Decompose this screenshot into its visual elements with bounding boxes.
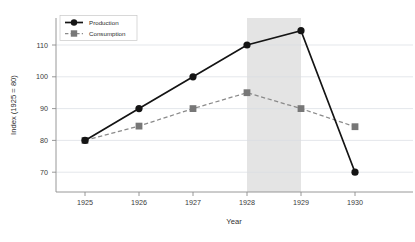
shaded-region-1928-1929 [247, 18, 301, 192]
x-tick-label-1928: 1928 [239, 198, 255, 207]
line-chart: 110 100 90 80 70 1925 1926 1927 1928 192… [0, 0, 415, 242]
x-tick-label-1929: 1929 [293, 198, 309, 207]
legend-label-production: Production [89, 19, 119, 26]
production-point-1928 [243, 41, 250, 48]
consumption-point-1927 [190, 105, 197, 112]
shaded-region-group [247, 18, 301, 192]
legend-label-consumption: Consumption [89, 30, 126, 37]
consumption-point-1928 [244, 89, 251, 96]
series-consumption [82, 89, 359, 144]
axes-group [56, 18, 413, 192]
legend-entry-production[interactable]: Production [65, 19, 119, 26]
chart-legend[interactable]: Production Consumption [60, 16, 137, 41]
production-point-1926 [135, 105, 142, 112]
x-tick-labels: 1925 1926 1927 1928 1929 1930 [77, 198, 363, 207]
x-tick-label-1925: 1925 [77, 198, 93, 207]
production-point-1927 [189, 73, 196, 80]
consumption-point-1929 [298, 105, 305, 112]
x-tick-label-1930: 1930 [347, 198, 363, 207]
chart-figure: 110 100 90 80 70 1925 1926 1927 1928 192… [0, 0, 415, 242]
y-tick-label-90: 90 [40, 104, 48, 113]
production-point-1925 [81, 137, 88, 144]
y-axis-title: Index (1925 = 80) [9, 75, 18, 135]
y-tick-label-70: 70 [40, 168, 48, 177]
y-tick-marks [52, 45, 56, 172]
production-point-1930 [351, 169, 358, 176]
production-line [85, 31, 355, 173]
series-production [81, 27, 358, 176]
x-tick-label-1926: 1926 [131, 198, 147, 207]
y-tick-label-110: 110 [37, 41, 48, 50]
legend-entry-consumption[interactable]: Consumption [65, 30, 126, 37]
y-tick-label-100: 100 [36, 72, 48, 81]
legend-consumption-marker [71, 30, 77, 36]
y-tick-label-80: 80 [40, 136, 48, 145]
x-axis-title: Year [226, 217, 242, 226]
legend-production-marker [71, 19, 77, 25]
x-tick-marks [85, 192, 355, 196]
x-tick-label-1927: 1927 [185, 198, 201, 207]
production-point-1929 [297, 27, 304, 34]
y-tick-labels: 110 100 90 80 70 [36, 41, 48, 177]
consumption-point-1930 [352, 123, 359, 130]
gridlines-group [56, 45, 413, 172]
consumption-point-1926 [136, 123, 143, 130]
